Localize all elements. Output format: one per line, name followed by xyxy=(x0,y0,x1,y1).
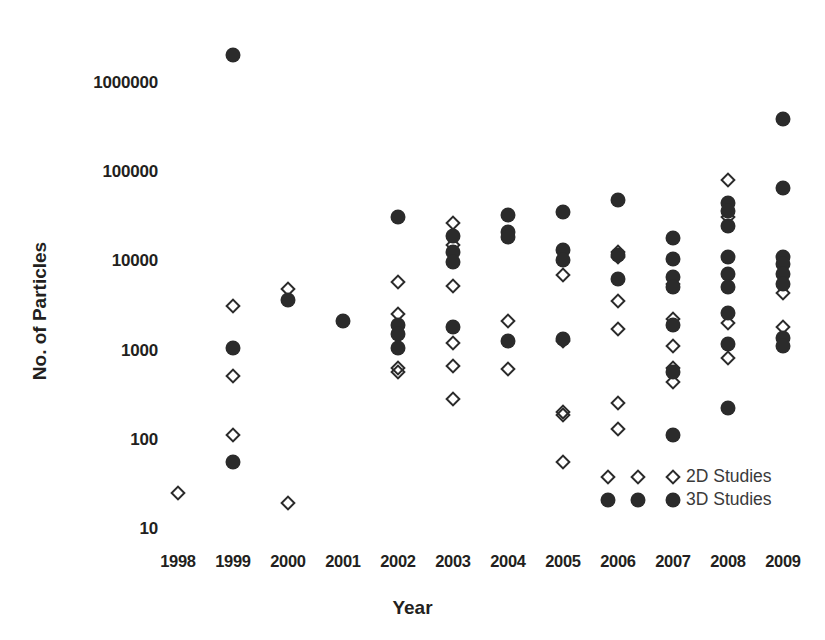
legend-label: 3D Studies xyxy=(686,489,772,509)
data-point-3d xyxy=(446,228,461,243)
y-tick-100: 100 xyxy=(58,430,158,447)
data-point-3d xyxy=(556,332,571,347)
data-point-2d xyxy=(611,294,626,309)
data-point-2d xyxy=(391,275,406,290)
y-tick-10: 10 xyxy=(58,520,158,537)
data-point-2d xyxy=(226,369,241,384)
data-point-3d xyxy=(611,271,626,286)
data-point-3d xyxy=(446,255,461,270)
data-point-3d xyxy=(391,209,406,224)
data-point-3d xyxy=(721,401,736,416)
data-point-3d xyxy=(666,428,681,443)
data-point-2d xyxy=(611,421,626,436)
legend-marker-open-diamond-icon xyxy=(596,466,682,488)
data-point-2d xyxy=(446,358,461,373)
chart-legend: 2D Studies3D Studies xyxy=(596,466,811,516)
data-point-3d xyxy=(226,454,241,469)
y-axis-title: No. of Particles xyxy=(29,191,51,431)
data-point-2d xyxy=(281,496,296,511)
data-point-3d xyxy=(721,337,736,352)
data-point-3d xyxy=(666,230,681,245)
open-diamond-icon xyxy=(666,470,681,485)
filled-circle-icon xyxy=(601,493,616,508)
data-point-3d xyxy=(501,208,516,223)
data-point-3d xyxy=(556,204,571,219)
data-point-2d xyxy=(666,338,681,353)
data-point-2d xyxy=(226,298,241,313)
data-point-2d xyxy=(446,391,461,406)
data-point-2d xyxy=(391,365,406,380)
data-point-3d xyxy=(721,203,736,218)
data-point-3d xyxy=(226,48,241,63)
data-point-3d xyxy=(336,313,351,328)
data-point-3d xyxy=(776,180,791,195)
y-tick-1000000: 1000000 xyxy=(58,74,158,91)
legend-item-3d-studies[interactable]: 3D Studies xyxy=(596,489,811,511)
data-point-3d xyxy=(666,251,681,266)
data-point-3d xyxy=(721,280,736,295)
x-axis-tick-labels: 1998199920002001200220032004200520062007… xyxy=(0,552,825,576)
data-point-2d xyxy=(556,268,571,283)
legend-marker-filled-circle-icon xyxy=(596,489,682,511)
data-point-3d xyxy=(501,229,516,244)
scatter-plot-figure: 100000010000010000100010010 No. of Parti… xyxy=(0,0,825,640)
data-point-2d xyxy=(501,313,516,328)
data-point-3d xyxy=(721,305,736,320)
data-point-2d xyxy=(501,362,516,377)
data-point-3d xyxy=(721,219,736,234)
x-tick-2009: 2009 xyxy=(748,552,818,570)
data-point-2d xyxy=(171,485,186,500)
data-point-2d xyxy=(611,396,626,411)
data-point-3d xyxy=(666,280,681,295)
data-point-3d xyxy=(501,333,516,348)
y-tick-100000: 100000 xyxy=(58,163,158,180)
x-axis-title: Year xyxy=(0,597,825,619)
data-point-2d xyxy=(446,335,461,350)
open-diamond-icon xyxy=(631,470,646,485)
data-point-3d xyxy=(391,340,406,355)
data-point-2d xyxy=(226,428,241,443)
data-point-3d xyxy=(776,112,791,127)
data-point-2d xyxy=(446,278,461,293)
data-point-2d xyxy=(611,322,626,337)
filled-circle-icon xyxy=(631,493,646,508)
data-point-3d xyxy=(721,249,736,264)
data-point-2d xyxy=(721,172,736,187)
y-tick-10000: 10000 xyxy=(58,252,158,269)
data-point-3d xyxy=(556,253,571,268)
legend-label: 2D Studies xyxy=(686,466,772,486)
data-point-3d xyxy=(611,247,626,262)
filled-circle-icon xyxy=(666,493,681,508)
data-point-3d xyxy=(666,317,681,332)
data-point-3d xyxy=(226,340,241,355)
data-point-3d xyxy=(391,326,406,341)
data-point-3d xyxy=(776,276,791,291)
data-point-3d xyxy=(666,365,681,380)
data-point-3d xyxy=(776,338,791,353)
data-point-2d xyxy=(556,454,571,469)
y-tick-1000: 1000 xyxy=(58,341,158,358)
y-axis-tick-labels: 100000010000010000100010010 xyxy=(48,0,158,640)
data-point-3d xyxy=(281,292,296,307)
legend-item-2d-studies[interactable]: 2D Studies xyxy=(596,466,811,488)
data-point-2d xyxy=(721,351,736,366)
open-diamond-icon xyxy=(601,470,616,485)
data-point-3d xyxy=(611,192,626,207)
data-point-2d xyxy=(556,407,571,422)
data-point-3d xyxy=(446,319,461,334)
